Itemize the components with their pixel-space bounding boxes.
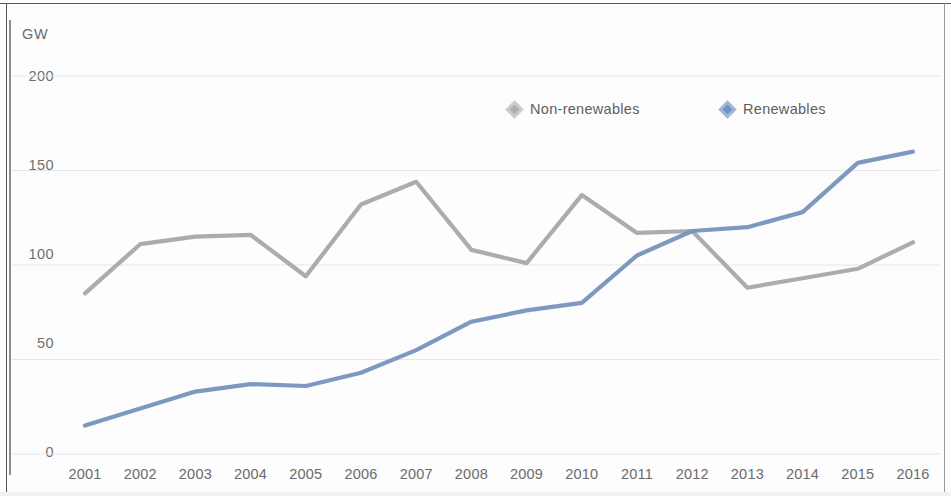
gridlines bbox=[11, 76, 940, 454]
x-tick-label-2014: 2014 bbox=[774, 466, 832, 482]
x-tick-label-2015: 2015 bbox=[829, 466, 887, 482]
x-tick-label-2004: 2004 bbox=[222, 466, 280, 482]
plot-area bbox=[0, 0, 951, 496]
series-line-renewables bbox=[85, 152, 913, 426]
x-tick-label-2008: 2008 bbox=[442, 466, 500, 482]
x-tick-label-2001: 2001 bbox=[56, 466, 114, 482]
x-tick-label-2007: 2007 bbox=[387, 466, 445, 482]
series-lines bbox=[85, 152, 913, 426]
chart-container: GW 200 150 100 50 0 Non-renewables Renew… bbox=[0, 0, 951, 496]
x-tick-label-2016: 2016 bbox=[884, 466, 942, 482]
x-tick-label-2010: 2010 bbox=[553, 466, 611, 482]
x-tick-label-2012: 2012 bbox=[663, 466, 721, 482]
x-tick-label-2009: 2009 bbox=[498, 466, 556, 482]
series-line-non-renewables bbox=[85, 182, 913, 294]
x-tick-label-2005: 2005 bbox=[277, 466, 335, 482]
x-tick-label-2003: 2003 bbox=[166, 466, 224, 482]
x-tick-label-2006: 2006 bbox=[332, 466, 390, 482]
x-tick-label-2002: 2002 bbox=[111, 466, 169, 482]
x-tick-label-2011: 2011 bbox=[608, 466, 666, 482]
x-tick-label-2013: 2013 bbox=[718, 466, 776, 482]
